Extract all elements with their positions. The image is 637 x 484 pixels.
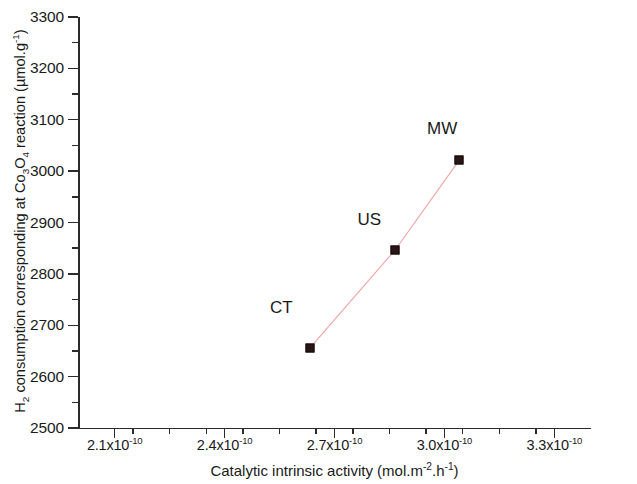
x-axis-title-suffix: ): [454, 462, 459, 479]
y-axis-title-mid-2: O: [12, 157, 28, 168]
x-axis-title-mid: .h: [432, 462, 445, 479]
x-axis-tick-label-exponent: -10: [129, 435, 142, 446]
x-axis-tick-label-mantissa: 2.7x10: [307, 437, 349, 453]
y-axis-title-mid-1: consumption corresponding at Co: [12, 174, 28, 396]
x-axis-tick-label-exponent: -10: [349, 435, 362, 446]
x-axis-tick-label-exponent: -10: [459, 435, 472, 446]
series-line-path: [0, 0, 637, 484]
x-axis-tick-label: 3.0x10-10: [417, 437, 472, 453]
y-axis-title-mid-3: reaction (µmol.g: [12, 43, 28, 152]
x-axis-tick-label-mantissa: 2.1x10: [87, 437, 129, 453]
x-axis-tick-label: 2.7x10-10: [307, 437, 362, 453]
chart-figure: 250026002700280029003000310032003300 CTU…: [0, 0, 637, 484]
x-axis-title: Catalytic intrinsic activity (mol.m-2.h-…: [78, 462, 591, 479]
x-axis-tick-label-mantissa: 3.3x10: [527, 437, 569, 453]
x-axis-tick-label-exponent: -10: [569, 435, 582, 446]
y-axis-title-sub-1: 2: [20, 397, 31, 403]
x-axis-tick-label-mantissa: 2.4x10: [197, 437, 239, 453]
x-axis-title-exponent-1: -2: [423, 461, 432, 472]
x-axis-tick-label-mantissa: 3.0x10: [417, 437, 459, 453]
y-axis-title-sub-3: 4: [20, 152, 31, 158]
x-axis-title-prefix: Catalytic intrinsic activity (mol.m: [210, 462, 423, 479]
x-axis-tick-label: 2.1x10-10: [87, 437, 142, 453]
x-axis-title-exponent-2: -1: [445, 461, 454, 472]
x-axis-tick-label: 2.4x10-10: [197, 437, 252, 453]
y-axis-title: H2 consumption corresponding at Co3O4 re…: [12, 11, 28, 431]
y-axis-title-suffix: ): [12, 29, 28, 34]
y-axis-title-prefix: H: [12, 402, 28, 413]
y-axis-title-sub-2: 3: [20, 169, 31, 175]
x-axis-tick-label: 3.3x10-10: [527, 437, 582, 453]
x-axis-tick-label-exponent: -10: [239, 435, 252, 446]
series-connecting-line: [310, 160, 460, 349]
y-axis-title-exponent: -1: [10, 34, 21, 43]
